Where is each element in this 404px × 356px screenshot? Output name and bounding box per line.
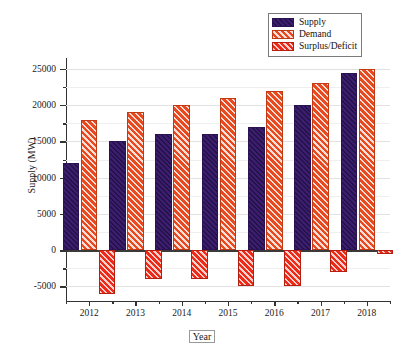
bar-chart: 2500020000150001000050000-5000 201220132… [0,0,404,356]
y-tick-major [60,105,66,106]
x-tick-major [321,301,322,306]
x-tick-minor [66,301,67,304]
bar-demand-2012[interactable] [81,120,98,251]
legend-item-supply[interactable]: Supply [272,17,357,28]
x-tick-label: 2018 [357,308,376,318]
legend-item-surplus-deficit[interactable]: Surplus/Deficit [272,41,357,52]
y-tick-label: -5000 [0,281,56,291]
x-tick-major [89,301,90,306]
x-tick-minor [205,301,206,304]
bar-demand-2014[interactable] [173,105,190,250]
y-tick-label: 20000 [0,100,56,110]
bar-demand-2015[interactable] [220,98,237,250]
bar-deficit-2018[interactable] [377,250,394,254]
x-tick-minor [251,301,252,304]
x-tick-label: 2015 [219,308,238,318]
bar-demand-2016[interactable] [266,91,283,251]
bar-supply-2013[interactable] [109,141,126,250]
x-tick-label: 2014 [172,308,191,318]
bar-demand-2017[interactable] [312,83,329,250]
bar-supply-2012[interactable] [63,163,80,250]
x-tick-minor [112,301,113,304]
x-tick-major [274,301,275,306]
x-tick-minor [390,301,391,304]
bar-deficit-2017[interactable] [330,250,347,272]
x-tick-major [182,301,183,306]
x-tick-major [135,301,136,306]
bar-supply-2018[interactable] [341,73,358,251]
bar-deficit-2012[interactable] [99,250,116,294]
bar-deficit-2015[interactable] [238,250,255,286]
bar-deficit-2013[interactable] [145,250,162,279]
x-tick-minor [344,301,345,304]
bar-deficit-2016[interactable] [284,250,301,286]
y-tick-minor [63,160,67,161]
y-tick-major [60,286,66,287]
x-tick-minor [159,301,160,304]
y-tick-minor [63,123,67,124]
x-tick-major [228,301,229,306]
y-tick-major [60,141,66,142]
legend-item-demand[interactable]: Demand [272,29,357,40]
legend-label-demand: Demand [299,29,331,40]
legend-swatch-surplus-deficit-icon [272,42,294,51]
bar-demand-2018[interactable] [359,69,376,250]
legend-label-surplus-deficit: Surplus/Deficit [299,41,357,52]
x-tick-major [367,301,368,306]
x-tick-label: 2016 [265,308,284,318]
legend-swatch-supply-icon [272,18,294,27]
x-tick-label: 2013 [126,308,145,318]
bar-supply-2014[interactable] [155,134,172,250]
legend-swatch-demand-icon [272,30,294,39]
y-tick-label: 25000 [0,64,56,74]
y-tick-major [60,250,66,251]
x-axis-title-text: Year [189,330,215,343]
bar-deficit-2014[interactable] [191,250,208,279]
bar-supply-2015[interactable] [202,134,219,250]
x-tick-minor [297,301,298,304]
legend: Supply Demand Surplus/Deficit [268,13,362,57]
bar-supply-2016[interactable] [248,127,265,250]
legend-label-supply: Supply [299,17,326,28]
y-axis-title: Supply (MW) [26,111,37,221]
bar-demand-2013[interactable] [127,112,144,250]
x-axis-title: Year [0,331,404,342]
bar-supply-2017[interactable] [294,105,311,250]
y-tick-minor [63,268,67,269]
x-tick-label: 2012 [80,308,99,318]
x-tick-label: 2017 [311,308,330,318]
y-tick-major [60,69,66,70]
y-tick-minor [63,87,67,88]
y-tick-label: 0 [0,245,56,255]
